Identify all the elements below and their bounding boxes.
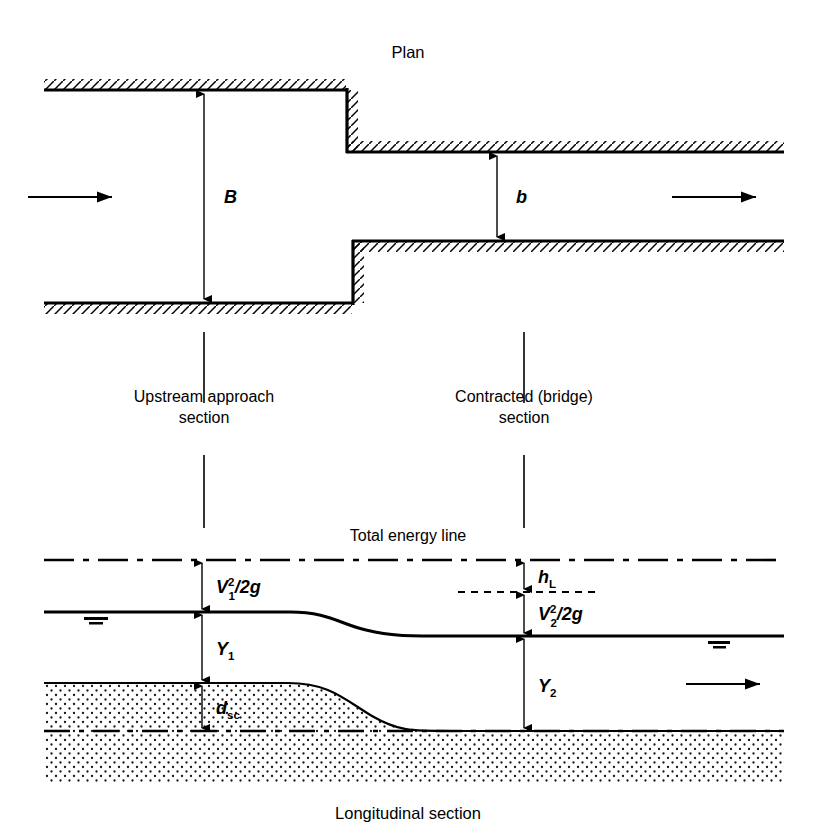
plan-title: Plan xyxy=(391,43,424,61)
label-velocity-head-2-sup: 2 xyxy=(550,603,556,615)
plan-bottom-bank-upstream xyxy=(44,303,353,314)
plan-label-B: B xyxy=(224,187,237,207)
plan-dimension-B: B xyxy=(204,94,237,299)
label-velocity-head-1-sup: 2 xyxy=(228,576,234,588)
sediment-body xyxy=(44,683,784,782)
label-depth-1: Y1 xyxy=(216,639,235,662)
plan-top-bank-contracted xyxy=(346,141,784,152)
water-surface-profile xyxy=(44,612,784,636)
total-energy-line-label: Total energy line xyxy=(350,527,467,544)
plan-dimension-b: b xyxy=(497,156,527,237)
label-head-loss-sub: L xyxy=(549,578,556,590)
label-depth-2: Y2 xyxy=(538,676,556,699)
plan-bottom-bank-contracted xyxy=(352,241,784,252)
section-label-upstream-line1: Upstream approach xyxy=(134,388,275,405)
label-depth-2-sub: 2 xyxy=(550,687,556,699)
label-velocity-head-1: V21/2g xyxy=(216,576,261,602)
water-level-symbol-downstream xyxy=(708,641,730,649)
section-label-upstream-line2: section xyxy=(179,409,230,426)
plan-top-bank-upstream xyxy=(44,79,347,90)
label-velocity-head-1-tail: /2g xyxy=(234,577,261,597)
section-label-contracted-line2: section xyxy=(499,409,550,426)
water-level-symbol-upstream xyxy=(84,617,108,625)
label-head-loss: hL xyxy=(538,567,556,590)
longitudinal-section-caption: Longitudinal section xyxy=(335,804,481,822)
figure-container: Plan xyxy=(0,0,817,835)
plan-label-b: b xyxy=(516,187,527,207)
bridge-contraction-diagram: Plan xyxy=(0,0,817,835)
section-label-contracted-line1: Contracted (bridge) xyxy=(455,388,593,405)
label-velocity-head-2-tail: /2g xyxy=(556,604,583,624)
label-head-loss-base: h xyxy=(538,567,549,587)
label-scour-depth-sub: sc xyxy=(227,709,240,721)
label-velocity-head-2: V22/2g xyxy=(538,603,583,629)
label-depth-1-sub: 1 xyxy=(228,650,235,662)
